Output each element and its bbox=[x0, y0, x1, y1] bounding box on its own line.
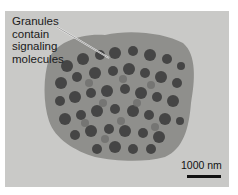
annotation-line-3: signaling bbox=[12, 40, 64, 53]
annotation-line-2: contain bbox=[12, 28, 64, 41]
granules-annotation: Granules contain signaling molecules bbox=[12, 15, 64, 65]
scale-bar-label: 1000 nm bbox=[181, 159, 222, 171]
micrograph-panel: Granules contain signaling molecules 100… bbox=[5, 11, 229, 187]
annotation-line-1: Granules bbox=[12, 15, 64, 28]
annotation-line-4: molecules bbox=[12, 53, 64, 66]
scale-bar bbox=[187, 175, 221, 178]
